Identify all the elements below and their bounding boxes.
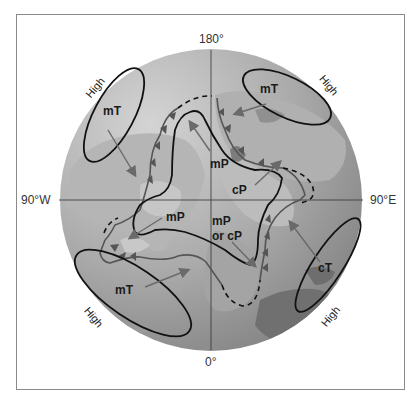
label-mt-upper-right: mT — [260, 82, 279, 96]
label-mp-or-cp-line1: mP — [212, 214, 231, 228]
label-90e: 90°E — [370, 193, 396, 207]
label-ct-lower-right: cT — [318, 261, 333, 275]
label-mp-or-cp-line2: or cP — [212, 229, 242, 243]
label-90w: 90°W — [21, 193, 51, 207]
label-180: 180° — [199, 32, 224, 46]
label-high-upper-right: High — [317, 73, 341, 98]
label-mt-lower-left: mT — [115, 283, 134, 297]
label-high-lower-right: High — [319, 304, 343, 329]
air-mass-globe-diagram: 180° 0° 90°W 90°E High High High High mT… — [0, 0, 418, 396]
label-cp-center-right: cP — [232, 183, 247, 197]
label-high-lower-left: High — [82, 304, 106, 329]
label-0: 0° — [205, 355, 217, 369]
label-mp-center-left: mP — [166, 210, 185, 224]
label-mp-center-top: mP — [210, 157, 229, 171]
label-mt-upper-left: mT — [103, 104, 122, 118]
